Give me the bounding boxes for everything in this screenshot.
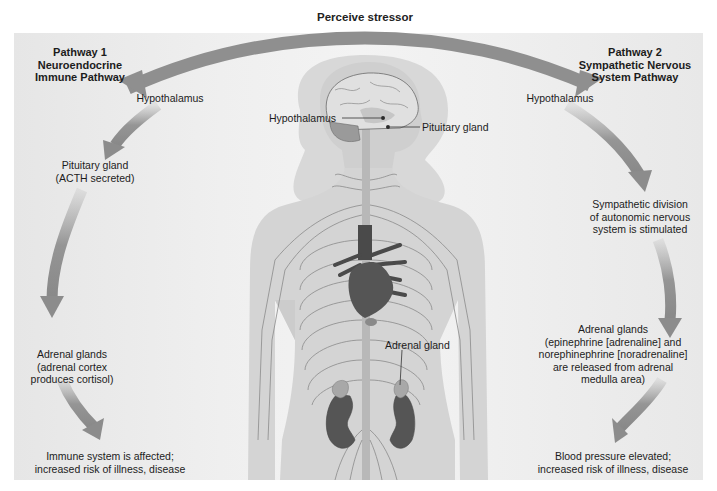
pathway1-title-line2: Neuroendocrine [30, 59, 130, 72]
adrenal-body-label: Adrenal gland [385, 339, 460, 352]
pathway2-step-outcome: Blood pressure elevated; increased risk … [528, 450, 698, 475]
pathway2-step-sympathetic: Sympathetic division of autonomic nervou… [585, 198, 695, 236]
step-line: norephinephrine [noradrenaline] [533, 348, 693, 361]
step-line: (adrenal cortex [22, 361, 122, 374]
step-line: Sympathetic division [585, 198, 695, 211]
pathway2-title: Pathway 2 Sympathetic Nervous System Pat… [575, 46, 695, 84]
pathway1-arrows [40, 105, 158, 440]
step-line: (epinephrine [adrenaline] and [533, 336, 693, 349]
pathway1-title-line1: Pathway 1 [30, 46, 130, 59]
step-line: Blood pressure elevated; [528, 450, 698, 463]
hypothalamus-body-label: Hypothalamus [256, 112, 336, 125]
hypothalamus-marker [381, 116, 385, 120]
pathway2-step-hypothalamus: Hypothalamus [515, 92, 605, 105]
step-line: of autonomic nervous [585, 211, 695, 224]
step-line: increased risk of illness, disease [25, 463, 195, 476]
pathway2-title-line1: Pathway 2 [575, 46, 695, 59]
pathway1-step-pituitary: Pituitary gland (ACTH secreted) [40, 159, 150, 184]
step-line: are released from adrenal [533, 361, 693, 374]
step-line: Adrenal glands [533, 323, 693, 336]
step-line: system is stimulated [585, 223, 695, 236]
pathway2-title-line2: Sympathetic Nervous [575, 59, 695, 72]
pituitary-marker [386, 125, 390, 129]
step-line: (ACTH secreted) [40, 172, 150, 185]
pathway2-step-adrenal: Adrenal glands (epinephrine [adrenaline]… [533, 323, 693, 386]
step-line: Pituitary gland [40, 159, 150, 172]
pathway1-title-line3: Immune Pathway [30, 71, 130, 84]
pathway1-title: Pathway 1 Neuroendocrine Immune Pathway [30, 46, 130, 84]
pituitary-body-label: Pituitary gland [422, 121, 502, 134]
pathway1-step-outcome: Immune system is affected; increased ris… [25, 450, 195, 475]
pathway2-title-line3: System Pathway [575, 71, 695, 84]
step-line: medulla area) [533, 373, 693, 386]
pathway1-step-adrenal: Adrenal glands (adrenal cortex produces … [22, 348, 122, 386]
step-line: Adrenal glands [22, 348, 122, 361]
pathway2-arrows [567, 105, 682, 443]
pathway1-step-hypothalamus: Hypothalamus [125, 92, 215, 105]
step-line: Immune system is affected; [25, 450, 195, 463]
perceive-stressor-label: Perceive stressor [305, 11, 425, 24]
step-line: increased risk of illness, disease [528, 463, 698, 476]
step-line: produces cortisol) [22, 373, 122, 386]
